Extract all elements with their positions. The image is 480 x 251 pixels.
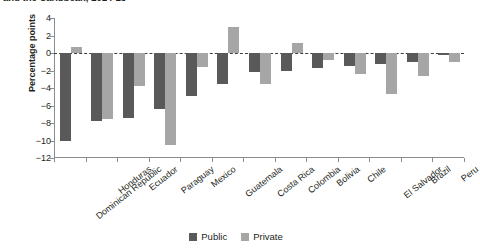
x-tick-mark	[338, 158, 339, 162]
bar-private	[449, 53, 460, 62]
x-tick-mark	[369, 158, 370, 162]
bar-public	[281, 53, 292, 71]
legend-swatch-private	[241, 233, 249, 241]
x-tick-mark	[117, 158, 118, 162]
x-tick-mark	[180, 158, 181, 162]
bar-private	[260, 53, 271, 84]
bar-public	[344, 53, 355, 66]
bar-private	[323, 53, 334, 60]
bar-public	[60, 53, 71, 141]
y-tick-label: 0	[46, 48, 51, 58]
legend-swatch-public	[189, 233, 197, 241]
y-tick-label: −8	[41, 118, 51, 128]
chart-title-clipped: and the Caribbean, 2014-15	[3, 0, 263, 4]
x-tick-mark	[86, 158, 87, 162]
bar-group	[246, 18, 274, 158]
x-tick-mark	[212, 158, 213, 162]
bar-group	[341, 18, 369, 158]
bar-public	[91, 53, 102, 121]
x-tick-mark	[149, 158, 150, 162]
bar-group	[214, 18, 242, 158]
bar-group	[88, 18, 116, 158]
bar-private	[197, 53, 208, 67]
bar-public	[438, 53, 449, 55]
y-tick-label: −12	[36, 153, 51, 163]
x-tick-mark	[306, 158, 307, 162]
bar-private	[71, 47, 82, 53]
plot-area: 420−2−4−6−8−10−12 Dominican RepublicHond…	[54, 18, 464, 158]
y-tick-label: −4	[41, 83, 51, 93]
bar-private	[165, 53, 176, 145]
bar-private	[355, 53, 366, 74]
bar-group	[183, 18, 211, 158]
bar-group	[404, 18, 432, 158]
legend-label: Private	[253, 231, 283, 242]
chart-legend: PublicPrivate	[0, 231, 472, 242]
bar-public	[375, 53, 386, 64]
x-axis-label: Chile	[365, 164, 387, 185]
y-tick-label: −2	[41, 66, 51, 76]
x-tick-mark	[432, 158, 433, 162]
bar-public	[186, 53, 197, 96]
y-tick-label: −6	[41, 101, 51, 111]
bar-public	[154, 53, 165, 109]
bar-private	[292, 43, 303, 53]
x-tick-mark	[54, 158, 55, 162]
bar-group	[372, 18, 400, 158]
x-tick-mark	[275, 158, 276, 162]
bar-private	[134, 53, 145, 86]
legend-item-public[interactable]: Public	[189, 231, 227, 242]
bar-group	[278, 18, 306, 158]
x-axis-label: Peru	[459, 164, 480, 184]
bar-group	[435, 18, 463, 158]
bar-group	[57, 18, 85, 158]
y-axis-title: Percentage points	[27, 0, 37, 113]
y-tick-label: 2	[46, 31, 51, 41]
bar-private	[418, 53, 429, 76]
bar-private	[228, 27, 239, 53]
x-tick-mark	[464, 158, 465, 162]
bar-public	[249, 53, 260, 72]
legend-item-private[interactable]: Private	[241, 231, 283, 242]
bar-public	[217, 53, 228, 84]
chart-title-text: and the Caribbean, 2014-15	[3, 0, 263, 3]
x-tick-mark	[401, 158, 402, 162]
y-axis-line	[54, 18, 55, 158]
x-tick-mark	[243, 158, 244, 162]
bar-private	[102, 53, 113, 119]
bar-public	[123, 53, 134, 118]
bar-group	[151, 18, 179, 158]
bar-private	[386, 53, 397, 94]
legend-label: Public	[201, 231, 227, 242]
bar-public	[312, 53, 323, 68]
bar-group	[309, 18, 337, 158]
y-tick-label: 4	[46, 13, 51, 23]
y-tick-label: −10	[36, 136, 51, 146]
bar-public	[407, 53, 418, 62]
bar-group	[120, 18, 148, 158]
